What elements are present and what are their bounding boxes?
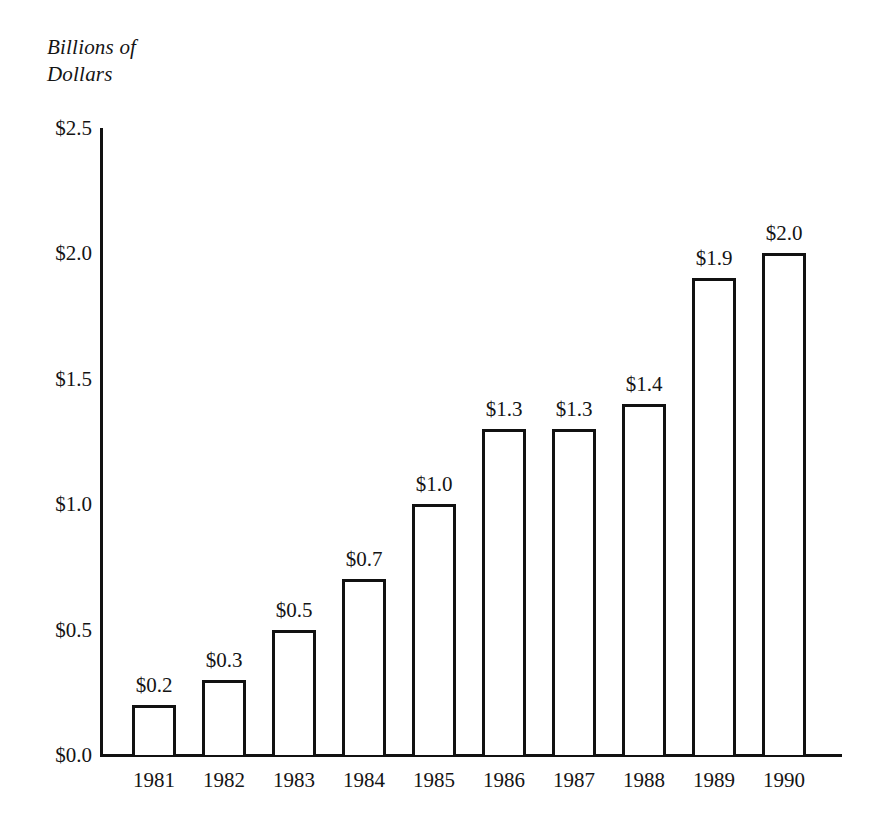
- x-axis-tick-label: 1984: [343, 770, 385, 791]
- y-axis-tick-label: $0.5: [34, 619, 92, 640]
- x-axis-tick-label: 1988: [623, 770, 665, 791]
- bar: [552, 429, 596, 755]
- x-axis-tick-label: 1987: [553, 770, 595, 791]
- bar: [132, 705, 176, 755]
- bar-value-label: $0.7: [346, 549, 383, 570]
- bar: [622, 404, 666, 755]
- bar-value-label: $0.3: [206, 650, 243, 671]
- bar-value-label: $1.9: [696, 248, 733, 269]
- y-axis-tick-label: $2.5: [34, 118, 92, 139]
- x-axis-tick-label: 1983: [273, 770, 315, 791]
- bar: [272, 630, 316, 755]
- bar: [412, 504, 456, 755]
- bar: [762, 253, 806, 755]
- bar-value-label: $2.0: [766, 223, 803, 244]
- bar-value-label: $1.4: [626, 374, 663, 395]
- x-axis-tick-label: 1982: [203, 770, 245, 791]
- plot-area: $0.0$0.5$1.0$1.5$2.0$2.5 $0.2$0.3$0.5$0.…: [0, 0, 879, 838]
- bar: [342, 579, 386, 755]
- y-axis-tick-labels: $0.0$0.5$1.0$1.5$2.0$2.5: [30, 0, 92, 838]
- y-axis-tick-label: $0.0: [34, 745, 92, 766]
- bar: [482, 429, 526, 755]
- x-axis-tick-label: 1989: [693, 770, 735, 791]
- bar-value-label: $1.3: [486, 399, 523, 420]
- x-axis-tick-label: 1985: [413, 770, 455, 791]
- x-axis-tick-label: 1990: [763, 770, 805, 791]
- y-axis-tick-label: $1.5: [34, 368, 92, 389]
- bar-value-label: $0.2: [136, 675, 173, 696]
- bar: [692, 278, 736, 755]
- x-axis-tick-label: 1986: [483, 770, 525, 791]
- y-axis-tick-label: $2.0: [34, 243, 92, 264]
- bar-chart-figure: Billions of Dollars $0.0$0.5$1.0$1.5$2.0…: [0, 0, 879, 838]
- bar: [202, 680, 246, 755]
- y-axis-line: [100, 128, 103, 757]
- bar-value-label: $1.0: [416, 474, 453, 495]
- y-axis-tick-label: $1.0: [34, 494, 92, 515]
- bar-value-label: $0.5: [276, 600, 313, 621]
- x-axis-tick-label: 1981: [133, 770, 175, 791]
- bar-value-label: $1.3: [556, 399, 593, 420]
